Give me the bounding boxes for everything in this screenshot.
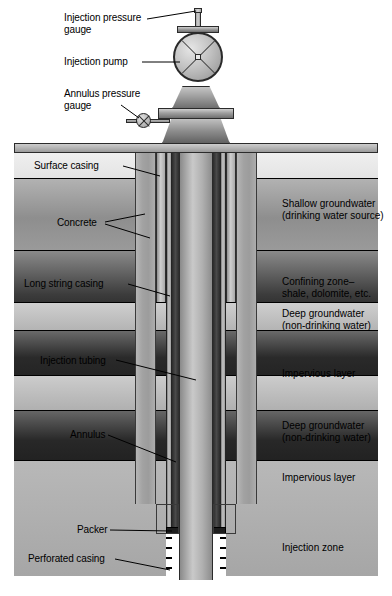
callout-concrete: Concrete bbox=[57, 217, 97, 229]
perforation-dash bbox=[220, 537, 226, 539]
perforation-dash bbox=[166, 567, 172, 569]
injection-pressure-gauge-stem bbox=[195, 12, 201, 27]
wellhead-pedestal-outline bbox=[162, 118, 230, 144]
callout-packer: Packer bbox=[77, 524, 108, 536]
surface-casing-left bbox=[156, 152, 166, 302]
long-string-casing-right bbox=[220, 152, 226, 534]
callout-long-string-casing: Long string casing bbox=[24, 278, 103, 290]
perforation-dash bbox=[220, 557, 226, 559]
injection-pressure-gauge-tip bbox=[194, 8, 202, 13]
annulus-gauge-arm bbox=[148, 119, 170, 123]
pressure-gauge-icon bbox=[136, 113, 151, 128]
casing-shoe-outline-right bbox=[213, 504, 236, 534]
open-hole-bottom bbox=[179, 580, 213, 596]
callout-annulus-pressure-gauge: Annulus pressure gauge bbox=[64, 88, 140, 111]
ground-surface-slab bbox=[14, 143, 378, 153]
callout-injection-pressure-gauge: Injection pressure gauge bbox=[64, 12, 141, 35]
perforated-gap-right bbox=[213, 534, 226, 576]
callout-surface-casing: Surface casing bbox=[34, 160, 99, 172]
pump-wheel-icon bbox=[173, 32, 223, 82]
callout-injection-tubing: Injection tubing bbox=[40, 355, 106, 367]
annulus-void-left bbox=[172, 152, 179, 534]
injection-tubing bbox=[179, 152, 213, 580]
surface-casing-right bbox=[226, 152, 236, 302]
long-string-casing-left bbox=[166, 152, 172, 534]
annulus-void-right bbox=[213, 152, 220, 534]
perforation-dash bbox=[220, 547, 226, 549]
pump-top-plate bbox=[177, 26, 219, 33]
wellhead-flange bbox=[158, 108, 234, 119]
perforation-dash bbox=[166, 537, 172, 539]
casing-shoe-outline-left bbox=[156, 504, 179, 534]
annulus-gauge-nipple bbox=[126, 119, 137, 123]
perforation-dash bbox=[166, 547, 172, 549]
callout-injection-pump: Injection pump bbox=[64, 56, 128, 68]
concrete-sheath-right bbox=[236, 152, 257, 504]
callout-annulus: Annulus bbox=[70, 429, 105, 441]
concrete-sheath-left bbox=[135, 152, 156, 504]
perforation-dash bbox=[220, 567, 226, 569]
perforation-dash bbox=[166, 557, 172, 559]
callout-perforated-casing: Perforated casing bbox=[28, 553, 105, 565]
perforated-gap-left bbox=[166, 534, 179, 576]
pump-hub bbox=[195, 54, 201, 60]
injection-well-diagram: Shallow groundwater (drinking water sour… bbox=[0, 0, 392, 596]
